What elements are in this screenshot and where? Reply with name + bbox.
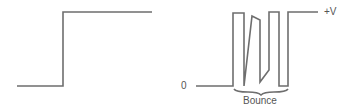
zero-label: 0 <box>181 80 187 91</box>
bounce-waveform <box>196 12 318 86</box>
bounce-label: Bounce <box>243 95 277 106</box>
ideal-step-waveform <box>17 12 152 86</box>
waveform-diagram: 0 +V Bounce <box>0 0 360 111</box>
plus-v-label: +V <box>324 6 337 17</box>
